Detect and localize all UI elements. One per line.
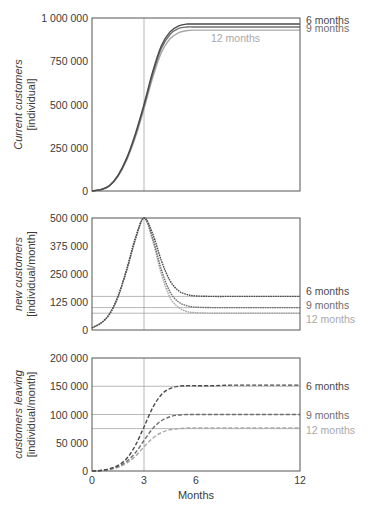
y-tick-label: 100 000 bbox=[50, 409, 88, 421]
x-tick-label: 12 bbox=[294, 474, 306, 486]
series-line-12-months bbox=[92, 218, 300, 328]
legend-label-12-months: 12 months bbox=[211, 32, 260, 44]
y-tick-label: 0 bbox=[82, 324, 88, 336]
chart-panel-2: 0125 000250 000375 000500 000new custome… bbox=[12, 212, 355, 336]
x-axis-label: Months bbox=[178, 489, 215, 501]
y-tick-label: 0 bbox=[82, 185, 88, 197]
legend-label-12-months: 12 months bbox=[306, 424, 355, 436]
x-tick-label: 0 bbox=[89, 474, 95, 486]
svg-text:[individual]: [individual] bbox=[25, 79, 37, 131]
y-tick-label: 1 000 000 bbox=[41, 12, 88, 24]
legend-label-6-months: 6 months bbox=[306, 380, 349, 392]
svg-text:Current customers: Current customers bbox=[12, 59, 24, 150]
legend-label-6-months: 6 months bbox=[306, 285, 349, 297]
y-axis-label: Current customers[individual] bbox=[12, 59, 37, 150]
figure: 0250 000500 000750 0001 000 000Current c… bbox=[0, 0, 368, 514]
y-tick-label: 500 000 bbox=[50, 212, 88, 224]
x-tick-label: 6 bbox=[193, 474, 199, 486]
y-tick-label: 500 000 bbox=[50, 99, 88, 111]
x-tick-label: 3 bbox=[141, 474, 147, 486]
chart-panel-3: 050 000100 000150 000200 00003612Monthsc… bbox=[12, 352, 355, 501]
legend-label-9-months: 9 months bbox=[306, 299, 349, 311]
series-line-6-months bbox=[92, 218, 300, 328]
y-tick-label: 125 000 bbox=[50, 296, 88, 308]
y-axis-label: customers leaving[individual/month] bbox=[12, 369, 37, 459]
y-tick-label: 50 000 bbox=[56, 437, 88, 449]
series-line-6-months bbox=[92, 24, 300, 191]
svg-text:[individual/month]: [individual/month] bbox=[25, 372, 37, 458]
y-tick-label: 150 000 bbox=[50, 380, 88, 392]
chart-panel-1: 0250 000500 000750 0001 000 000Current c… bbox=[12, 12, 349, 197]
y-tick-label: 750 000 bbox=[50, 55, 88, 67]
y-tick-label: 250 000 bbox=[50, 142, 88, 154]
y-tick-label: 0 bbox=[82, 465, 88, 477]
svg-text:new customers: new customers bbox=[12, 237, 24, 311]
svg-text:customers leaving: customers leaving bbox=[12, 369, 24, 459]
svg-text:[individual/month]: [individual/month] bbox=[25, 231, 37, 317]
y-axis-label: new customers[individual/month] bbox=[12, 231, 37, 317]
legend-label-9-months: 9 months bbox=[306, 409, 349, 421]
series-line-9-months bbox=[92, 218, 300, 328]
y-tick-label: 375 000 bbox=[50, 240, 88, 252]
legend-label-12-months: 12 months bbox=[306, 313, 355, 325]
y-tick-label: 200 000 bbox=[50, 352, 88, 364]
legend-label-9-months: 9 months bbox=[306, 22, 349, 34]
y-tick-label: 250 000 bbox=[50, 268, 88, 280]
